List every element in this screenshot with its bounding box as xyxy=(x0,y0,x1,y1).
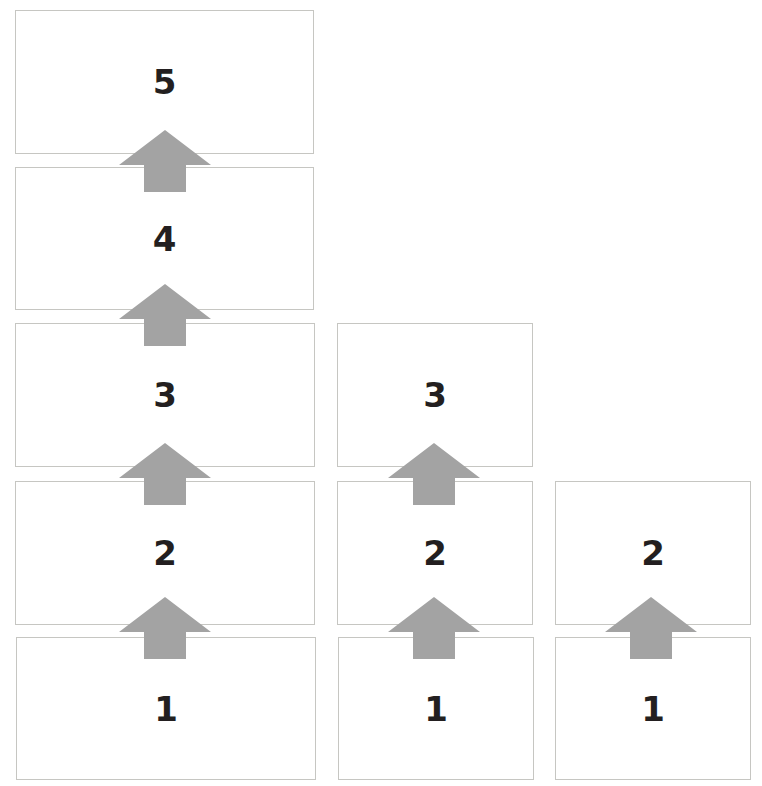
box-label: 2 xyxy=(153,533,177,573)
arrow-up-icon xyxy=(119,443,211,505)
arrow-up-icon xyxy=(119,284,211,346)
box-label: 2 xyxy=(423,533,447,573)
box-label: 1 xyxy=(641,689,665,729)
arrow-up-icon xyxy=(119,597,211,659)
box-label: 5 xyxy=(153,62,177,102)
arrow-up-icon xyxy=(388,443,480,505)
arrow-up-icon xyxy=(119,130,211,192)
box-label: 3 xyxy=(153,375,177,415)
box-label: 2 xyxy=(641,533,665,573)
box-label: 1 xyxy=(154,689,178,729)
box-label: 3 xyxy=(423,375,447,415)
box-label: 4 xyxy=(153,219,177,259)
arrow-up-icon xyxy=(605,597,697,659)
arrow-up-icon xyxy=(388,597,480,659)
box-label: 1 xyxy=(424,689,448,729)
